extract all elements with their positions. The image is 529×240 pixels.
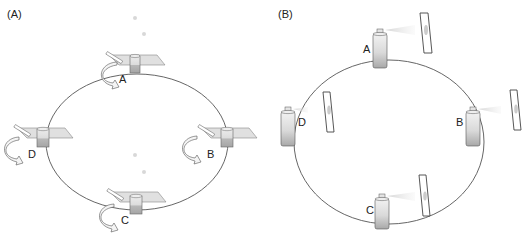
station-label: A — [363, 43, 371, 55]
cup — [37, 127, 49, 147]
cup — [221, 127, 233, 147]
rotation-arrow-icon — [4, 137, 23, 165]
panel-b-label: (B) — [278, 8, 293, 20]
cup — [130, 54, 140, 73]
spray-mark — [514, 105, 518, 114]
station-c: C — [366, 175, 430, 229]
station-a: A — [101, 52, 165, 89]
station-d: D — [4, 125, 73, 165]
track-ellipse — [46, 74, 228, 210]
spray-can-icon — [375, 194, 389, 229]
spray-can-icon — [373, 29, 387, 68]
faint-dots — [133, 16, 146, 174]
station-label: D — [28, 148, 36, 160]
station-label: B — [207, 148, 214, 160]
station-label: B — [456, 116, 463, 128]
spray-mark — [424, 25, 428, 35]
cup — [130, 194, 142, 214]
spray-can-icon — [281, 107, 295, 146]
spray-plume — [385, 25, 415, 35]
figure: (A) A B — [0, 0, 529, 240]
panel-a: (A) A B — [4, 8, 257, 232]
spray-mark — [423, 192, 427, 201]
station-a: A — [363, 13, 432, 68]
station-label: A — [119, 73, 127, 85]
station-label: C — [366, 204, 374, 216]
station-label: C — [121, 214, 129, 226]
station-b: B — [182, 125, 257, 164]
station-c: C — [99, 189, 166, 232]
spray-plume — [387, 192, 415, 201]
spray-can-icon — [466, 107, 480, 146]
panel-a-label: (A) — [7, 8, 22, 20]
rotation-arrow-icon — [182, 136, 201, 164]
spray-plume — [478, 106, 501, 114]
spray-mark — [327, 106, 331, 115]
station-label: D — [298, 116, 306, 128]
station-b: B — [456, 90, 521, 146]
panel-b: (B) A B — [278, 8, 521, 229]
